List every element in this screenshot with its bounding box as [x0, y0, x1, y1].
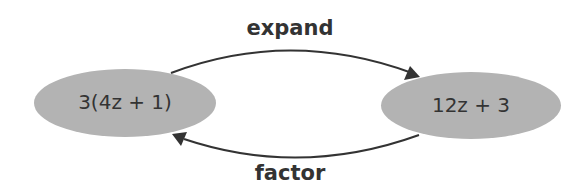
node-left-text: 3(4z + 1) [34, 90, 216, 114]
node-right-text: 12z + 3 [381, 93, 561, 117]
expand-label: expand [220, 16, 360, 40]
factor-label: factor [220, 161, 360, 185]
factor-arrow [184, 135, 419, 158]
expand-arrow [171, 51, 412, 74]
expand-arrowhead-icon [404, 66, 420, 80]
